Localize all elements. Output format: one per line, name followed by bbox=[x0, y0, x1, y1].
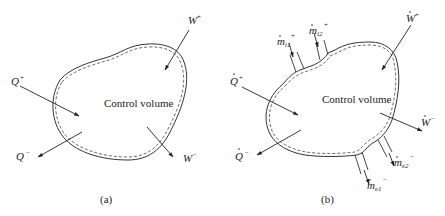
label-m-i1: m i1 + bbox=[277, 32, 295, 49]
svg-text:m: m bbox=[394, 156, 402, 168]
svg-text:−: − bbox=[245, 149, 249, 157]
label-w-minus-a: W − bbox=[183, 151, 197, 164]
svg-text:+: + bbox=[291, 32, 295, 40]
control-volume-diagram: Control volume W + W − Q + Q − (a) bbox=[0, 0, 445, 216]
svg-text:−: − bbox=[26, 149, 30, 157]
inlet-i1-pipe-left bbox=[290, 55, 296, 72]
w-minus-arrow-b bbox=[380, 113, 422, 131]
exit-e2-pipe-right bbox=[384, 136, 392, 152]
svg-text:Q: Q bbox=[230, 75, 238, 87]
label-w-plus-b: W + bbox=[406, 11, 419, 24]
svg-text:i2: i2 bbox=[317, 30, 323, 38]
label-m-e2: m e2 − bbox=[394, 153, 414, 170]
svg-text:m: m bbox=[367, 179, 375, 191]
w-minus-arrow-a bbox=[147, 127, 173, 157]
label-m-i2: m i2 + bbox=[309, 21, 328, 38]
exit-e1-pipe-right bbox=[362, 152, 368, 170]
svg-text:Q: Q bbox=[16, 150, 24, 162]
center-label-b: Control volume bbox=[322, 93, 391, 105]
svg-text:W: W bbox=[421, 116, 431, 128]
svg-text:e1: e1 bbox=[375, 185, 382, 193]
svg-text:−: − bbox=[383, 176, 387, 184]
svg-text:+: + bbox=[324, 21, 328, 29]
label-m-e1: m e1 − bbox=[367, 176, 387, 193]
center-label-a: Control volume bbox=[104, 97, 173, 109]
svg-text:−: − bbox=[193, 151, 197, 159]
svg-text:e2: e2 bbox=[402, 162, 409, 170]
exit-e2-pipe-left bbox=[378, 140, 387, 157]
svg-text:Q: Q bbox=[11, 75, 19, 87]
label-q-plus-a: Q + bbox=[11, 74, 24, 87]
caption-a: (a) bbox=[100, 193, 113, 206]
label-q-minus-a: Q − bbox=[16, 149, 30, 162]
caption-b: (b) bbox=[321, 193, 334, 206]
svg-text:m: m bbox=[277, 35, 285, 47]
exit-e1-pipe-left bbox=[355, 155, 361, 174]
label-q-minus-b: Q − bbox=[235, 148, 249, 162]
svg-text:+: + bbox=[20, 74, 24, 82]
svg-text:m: m bbox=[309, 24, 317, 36]
svg-text:−: − bbox=[410, 153, 414, 161]
inlet-i1-pipe-right bbox=[297, 52, 304, 69]
panel-b: Control volume W + W − Q + Q − m i1 + bbox=[230, 11, 435, 206]
w-plus-arrow-a bbox=[165, 30, 189, 70]
label-w-minus-b: W − bbox=[421, 115, 435, 128]
inlet-i2-pipe-right bbox=[324, 40, 328, 55]
svg-text:Q: Q bbox=[235, 150, 243, 162]
panel-a: Control volume W + W − Q + Q − (a) bbox=[11, 13, 201, 206]
svg-text:i1: i1 bbox=[285, 41, 290, 49]
q-plus-arrow-a bbox=[20, 86, 79, 116]
svg-text:+: + bbox=[415, 11, 419, 19]
svg-text:W: W bbox=[183, 152, 193, 164]
label-q-plus-b: Q + bbox=[230, 73, 243, 87]
svg-text:−: − bbox=[431, 115, 435, 123]
q-minus-arrow-a bbox=[38, 132, 82, 157]
q-minus-arrow-b bbox=[257, 130, 301, 155]
svg-text:+: + bbox=[239, 74, 243, 82]
w-plus-arrow-b bbox=[382, 25, 411, 70]
svg-text:+: + bbox=[197, 13, 201, 21]
label-w-plus-a: W + bbox=[188, 13, 201, 26]
